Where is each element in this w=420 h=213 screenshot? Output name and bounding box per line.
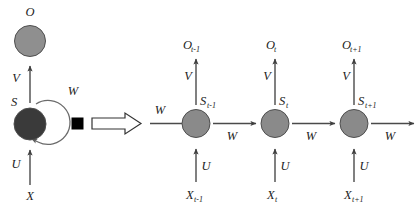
unrolled-v-label-0: V: [184, 69, 193, 83]
unrolled-state-node-1: [261, 110, 289, 138]
rnn-diagram-canvas: O V S W U X W S t-1 V O t-1: [0, 0, 420, 213]
unrolled-state-sub-0: t-1: [207, 101, 216, 110]
unrolled-v-label-2: V: [342, 69, 351, 83]
unrolled-state-label-0: S: [200, 94, 207, 108]
unrolled-input-sub-0: t-1: [194, 195, 203, 204]
unrolled-output-sub-1: t: [274, 45, 277, 54]
unrolled-output-sub-0: t-1: [191, 45, 200, 54]
unrolled-v-label-1: V: [263, 69, 272, 83]
unrolled-w-label-1: W: [306, 129, 318, 143]
transition-w-label: W: [155, 103, 167, 117]
folded-output-node: [15, 26, 46, 57]
unrolled-w-label-2: W: [385, 129, 397, 143]
unrolled-state-node-0: [182, 110, 210, 138]
unrolled-step-2: S t+1 V O t+1 U X t+1 W: [340, 38, 414, 204]
rnn-diagram: O V S W U X W S t-1 V O t-1: [0, 0, 420, 213]
folded-u-label: U: [11, 157, 21, 171]
unrolled-step-0: S t-1 V O t-1 U X t-1 W: [182, 38, 256, 204]
unrolled-state-label-1: S: [279, 94, 286, 108]
unrolled-state-sub-1: t: [286, 101, 289, 110]
folded-w-label: W: [68, 84, 80, 98]
folded-v-label: V: [12, 71, 21, 85]
unrolled-state-sub-2: t+1: [365, 101, 377, 110]
folded-output-label: O: [25, 5, 34, 19]
folded-recurrent-square-node: [72, 118, 83, 129]
unrolled-input-sub-1: t: [275, 195, 278, 204]
folded-state-node: [14, 108, 46, 140]
unrolled-output-sub-2: t+1: [350, 45, 362, 54]
folded-state-label: S: [11, 95, 18, 109]
folded-input-label: X: [25, 189, 35, 203]
unrolled-state-label-2: S: [358, 94, 365, 108]
unfold-block-arrow: [92, 113, 141, 134]
unrolled-w-label-0: W: [227, 129, 239, 143]
unrolled-step-1: S t V O t U X t W: [261, 38, 335, 204]
unrolled-u-label-1: U: [280, 159, 290, 173]
unrolled-state-node-2: [340, 110, 368, 138]
unrolled-input-sub-2: t+1: [352, 195, 364, 204]
unrolled-u-label-0: U: [201, 159, 211, 173]
unrolled-u-label-2: U: [359, 159, 369, 173]
